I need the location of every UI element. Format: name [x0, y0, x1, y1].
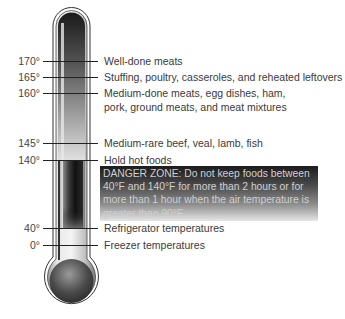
- tick-line: [43, 228, 98, 229]
- danger-zone-line: greater than 90°F.: [103, 207, 315, 220]
- tick-line: [43, 245, 98, 246]
- tick-line: [43, 160, 98, 161]
- temp-label: 40°: [0, 222, 40, 234]
- danger-zone-line: DANGER ZONE: Do not keep foods between: [103, 167, 315, 180]
- danger-zone-line: more than 1 hour when the air temperatur…: [103, 193, 315, 206]
- marker-description: Refrigerator temperatures: [104, 222, 224, 234]
- tick-line: [43, 143, 98, 144]
- temp-label: 145°: [0, 137, 40, 149]
- danger-zone-line: 40°F and 140°F for more than 2 hours or …: [103, 180, 315, 193]
- marker-description: Stuffing, poultry, casseroles, and rehea…: [104, 71, 342, 83]
- danger-zone-box: DANGER ZONE: Do not keep foods between 4…: [100, 166, 318, 221]
- temp-label: 160°: [0, 87, 40, 99]
- temp-label: 0°: [0, 239, 40, 251]
- temp-label: 170°: [0, 55, 40, 67]
- marker-description: Well-done meats: [104, 55, 183, 67]
- temp-label: 140°: [0, 154, 40, 166]
- tick-line: [43, 61, 98, 62]
- tick-line: [43, 77, 98, 78]
- temp-label: 165°: [0, 71, 40, 83]
- marker-description: Medium-done meats, egg dishes, ham,: [104, 87, 286, 99]
- marker-description: Hold hot foods: [104, 154, 172, 166]
- marker-description: Medium-rare beef, veal, lamb, fish: [104, 137, 263, 149]
- marker-description-line2: pork, ground meats, and meat mixtures: [104, 101, 287, 113]
- marker-description: Freezer temperatures: [104, 239, 205, 251]
- tick-line: [43, 93, 98, 94]
